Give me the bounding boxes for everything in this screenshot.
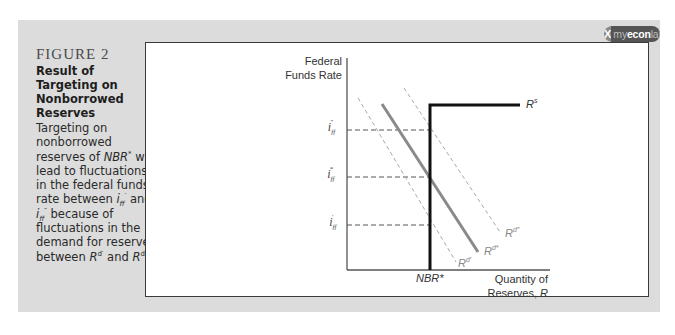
x-axis-label-text: Reserves, [487,287,540,299]
y-axis-label: Federal Funds Rate [285,54,342,82]
y-axis-label-line2: Funds Rate [285,68,342,82]
label-rd-low-base: R [458,257,466,269]
label-rs-sup: s [534,97,538,104]
tick-i-star: iff* [318,167,338,183]
tick-i-high: iff″ [318,120,338,136]
x-axis-var: R [540,287,548,299]
x-axis-label: Quantity of Reserves, R [480,272,548,300]
label-rd-star-base: R [484,245,492,257]
label-rd-high: Rd″ [505,226,519,239]
label-rd-star: Rd* [484,244,499,257]
tick-i-low-sup: ′ [331,213,333,221]
x-axis-label-line1: Quantity of [480,272,548,286]
tick-i-high-sup: ″ [330,118,333,126]
label-rd-low: Rd′ [458,256,471,269]
y-axis-label-line1: Federal [285,54,342,68]
tick-i-star-sub: ff [331,175,335,183]
label-rd-high-base: R [505,227,513,239]
tick-i-low: iff′ [318,215,338,231]
label-rs-base: R [526,98,534,110]
label-rd-low-sup: d′ [466,256,471,263]
nbr-target-label: NBR* [416,272,444,284]
label-rs: Rs [526,97,537,110]
label-rd-high-sup: d″ [513,226,519,233]
demand-curve-rd-low [358,98,456,262]
tick-i-low-sub: ff [333,223,337,231]
x-axis-label-line2: Reserves, R [480,286,548,300]
tick-i-high-sub: ff [331,128,335,136]
label-rd-star-sup: d* [492,244,499,251]
tick-i-star-sup: * [330,165,334,173]
